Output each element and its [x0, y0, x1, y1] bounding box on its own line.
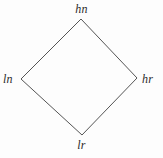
node-label-right: hr — [142, 73, 153, 85]
node-label-top: hn — [0, 3, 163, 15]
diamond-outline-shape — [21, 19, 137, 135]
node-label-left: ln — [3, 73, 13, 85]
diamond-edges-group — [0, 0, 163, 158]
node-label-bottom: lr — [0, 139, 163, 151]
lattice-diagram: hn ln hr lr — [0, 0, 163, 158]
